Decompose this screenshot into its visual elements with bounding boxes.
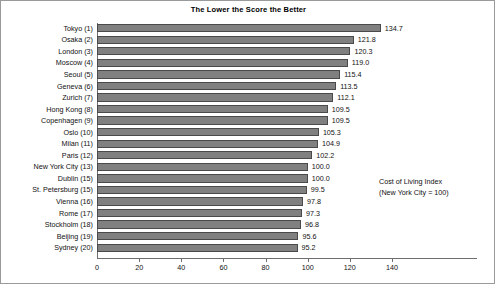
bar-value-label: 113.5 [340,83,357,90]
bar-value-label: 115.4 [344,71,361,78]
bar-row: Osaka (2)121.8 [97,35,392,47]
bar [97,105,328,113]
bar-value-label: 99.5 [311,187,325,194]
bar-row: Oslo (10)105.3 [97,127,392,139]
x-axis-tick-label: 80 [262,264,270,271]
x-axis-tick [139,258,140,262]
bar-value-label: 96.8 [305,222,319,229]
legend-line-2: (New York City = 100) [379,188,449,199]
bar-row: Beijing (19)95.6 [97,231,392,243]
bar-value-label: 95.6 [302,233,316,240]
bar [97,220,301,228]
bar-row: St. Petersburg (15)99.5 [97,185,392,197]
legend-line-1: Cost of Living Index [379,177,449,188]
bar [97,140,318,148]
bar [97,174,308,182]
bar-value-label: 100.0 [312,175,330,182]
bar-value-label: 100.0 [312,164,330,171]
bar-row: Zurich (7)112.1 [97,92,392,104]
x-axis-tick [350,258,351,262]
bar [97,70,340,78]
bar-row: Geneva (6)113.5 [97,81,392,93]
bar [97,36,354,44]
bar-value-label: 109.5 [332,118,350,125]
bar [97,93,333,101]
x-axis-tick [223,258,224,262]
category-label: London (3) [58,48,93,55]
bar-row: Dublin (15)100.0 [97,173,392,185]
bar-value-label: 105.3 [323,129,341,136]
bar-value-label: 104.9 [322,141,340,148]
category-label: Zurich (7) [62,94,93,101]
x-axis-tick-label: 120 [344,264,356,271]
x-axis-tick-label: 100 [302,264,314,271]
bar [97,82,336,90]
bar [97,244,298,252]
bar [97,232,298,240]
bar [97,128,319,136]
bar-row: Seoul (5)115.4 [97,69,392,81]
bar-value-label: 95.2 [302,245,316,252]
category-label: St. Petersburg (15) [32,187,93,194]
bar [97,47,350,55]
category-label: Dublin (15) [58,175,93,182]
category-label: Paris (12) [62,152,93,159]
bar-row: Vienna (16)97.8 [97,196,392,208]
bar-row: Hong Kong (8)109.5 [97,104,392,116]
bar-value-label: 97.8 [307,198,321,205]
category-label: Tokyo (1) [63,25,93,32]
bar-value-label: 109.5 [332,106,350,113]
x-axis-tick-label: 140 [386,264,398,271]
bar [97,186,307,194]
x-axis-tick [392,258,393,262]
category-label: Beijing (19) [57,233,93,240]
category-label: Copenhagen (9) [41,118,93,125]
bar-row: Paris (12)102.2 [97,150,392,162]
bar [97,163,308,171]
bar-value-label: 112.1 [337,94,354,101]
category-label: Moscow (4) [56,60,93,67]
bar [97,59,348,67]
x-axis-tick-label: 40 [177,264,185,271]
bar-row: Stockholm (18)96.8 [97,219,392,231]
bar-value-label: 97.3 [306,210,320,217]
bar-row: Copenhagen (9)109.5 [97,115,392,127]
plot-area: Tokyo (1)134.7Osaka (2)121.8London (3)12… [97,23,392,254]
category-label: Hong Kong (8) [46,106,93,113]
bar [97,209,302,217]
x-axis-tick [181,258,182,262]
chart-title: The Lower the Score the Better [1,5,495,14]
x-axis-tick-label: 0 [95,264,99,271]
legend-annotation: Cost of Living Index (New York City = 10… [379,177,449,198]
bar-row: New York City (13)100.0 [97,162,392,174]
x-axis-tick [266,258,267,262]
category-label: Stockholm (18) [45,222,93,229]
category-label: Rome (17) [59,210,93,217]
bar-value-label: 120.3 [354,48,372,55]
category-label: Vienna (16) [56,198,93,205]
bar [97,24,381,32]
bar [97,197,303,205]
category-label: Osaka (2) [61,37,93,44]
bar-row: Milan (11)104.9 [97,139,392,151]
x-axis-tick [308,258,309,262]
bar-row: Rome (17)97.3 [97,208,392,220]
bar [97,151,312,159]
bar-value-label: 121.8 [358,37,376,44]
category-label: Seoul (5) [64,71,93,78]
x-axis-tick-label: 20 [135,264,143,271]
bar [97,116,328,124]
category-label: New York City (13) [33,164,93,171]
bar-row: Moscow (4)119.0 [97,58,392,70]
category-label: Geneva (6) [57,83,93,90]
chart-figure: The Lower the Score the Better Tokyo (1)… [0,0,495,284]
bar-row: London (3)120.3 [97,46,392,58]
bar-value-label: 134.7 [385,25,403,32]
category-label: Sydney (20) [54,245,93,252]
bar-row: Tokyo (1)134.7 [97,23,392,35]
category-label: Oslo (10) [63,129,93,136]
bar-value-label: 119.0 [352,60,369,67]
x-axis-tick-label: 60 [219,264,227,271]
bar-value-label: 102.2 [316,152,334,159]
category-label: Milan (11) [62,141,93,148]
